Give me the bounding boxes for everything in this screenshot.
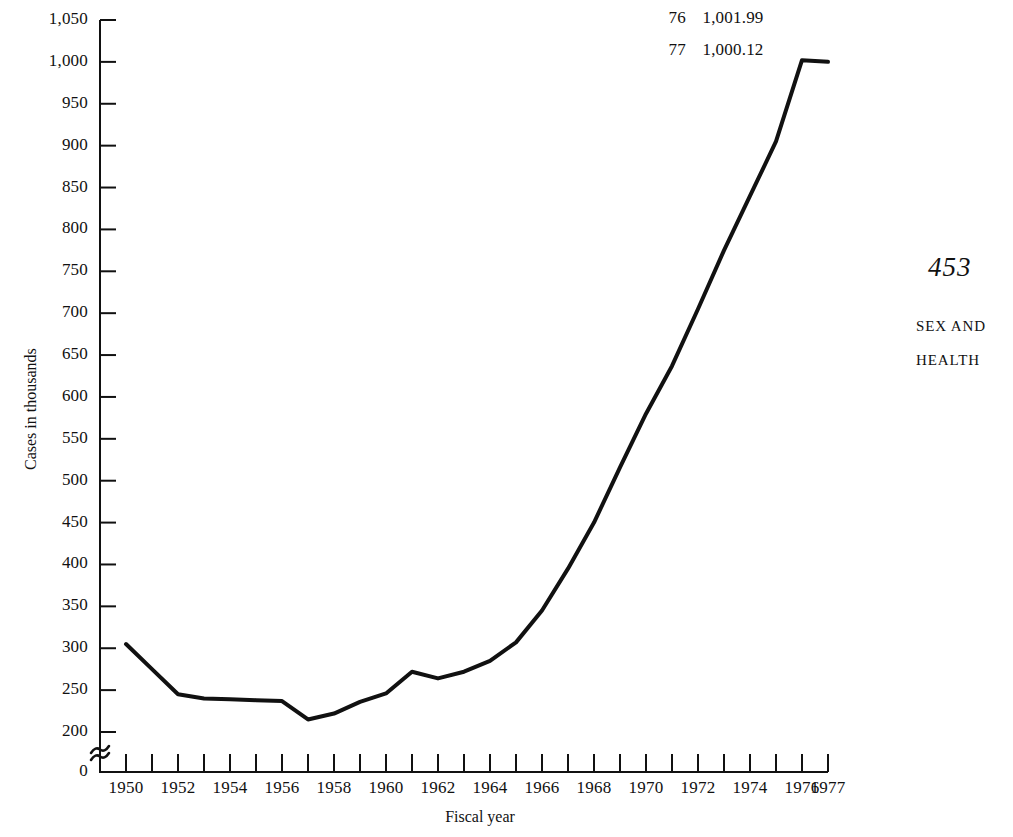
x-tick-label: 1960 bbox=[356, 778, 416, 798]
x-tick-label: 1977 bbox=[798, 778, 858, 798]
y-tick-label: 0 bbox=[0, 761, 88, 781]
annotation-1976-value: 1,001.99 bbox=[702, 8, 763, 28]
y-tick-label: 700 bbox=[0, 302, 88, 322]
data-series-line bbox=[126, 60, 828, 719]
y-tick-label: 550 bbox=[0, 428, 88, 448]
x-tick-label: 1950 bbox=[96, 778, 156, 798]
x-tick-label: 1974 bbox=[720, 778, 780, 798]
x-tick-label: 1956 bbox=[252, 778, 312, 798]
annotation-1977-year: 77 bbox=[660, 40, 686, 60]
annotation-1976: 76 1,001.99 bbox=[660, 8, 764, 28]
y-tick-label: 900 bbox=[0, 135, 88, 155]
x-tick-label: 1970 bbox=[616, 778, 676, 798]
y-tick-label: 450 bbox=[0, 512, 88, 532]
y-axis-title: Cases in thousands bbox=[22, 348, 40, 470]
y-tick-label: 600 bbox=[0, 386, 88, 406]
y-tick-label: 400 bbox=[0, 553, 88, 573]
y-tick-label: 950 bbox=[0, 93, 88, 113]
x-axis-title: Fiscal year bbox=[395, 808, 565, 826]
y-tick-label: 1,000 bbox=[0, 51, 88, 71]
y-tick-label: 200 bbox=[0, 721, 88, 741]
chart-plot-area bbox=[0, 0, 1013, 837]
y-tick-label: 850 bbox=[0, 177, 88, 197]
y-tick-label: 800 bbox=[0, 218, 88, 238]
x-tick-label: 1972 bbox=[668, 778, 728, 798]
y-tick-label: 750 bbox=[0, 260, 88, 280]
x-tick-label: 1954 bbox=[200, 778, 260, 798]
x-tick-label: 1966 bbox=[512, 778, 572, 798]
x-tick-label: 1968 bbox=[564, 778, 624, 798]
axis-lines bbox=[100, 20, 828, 772]
x-tick-label: 1962 bbox=[408, 778, 468, 798]
y-tick-label: 500 bbox=[0, 470, 88, 490]
x-tick-label: 1952 bbox=[148, 778, 208, 798]
running-head-line-1: SEX AND bbox=[916, 318, 986, 335]
annotation-1977: 77 1,000.12 bbox=[660, 40, 764, 60]
x-axis-ticks bbox=[126, 754, 828, 772]
annotation-1977-value: 1,000.12 bbox=[702, 40, 763, 60]
y-axis-ticks bbox=[100, 20, 116, 772]
y-tick-label: 300 bbox=[0, 637, 88, 657]
annotation-1976-year: 76 bbox=[660, 8, 686, 28]
x-tick-label: 1958 bbox=[304, 778, 364, 798]
x-tick-label: 1964 bbox=[460, 778, 520, 798]
y-tick-label: 250 bbox=[0, 679, 88, 699]
running-head-line-2: HEALTH bbox=[916, 352, 980, 369]
y-tick-label: 350 bbox=[0, 595, 88, 615]
page-folio: 453 bbox=[928, 252, 972, 283]
y-tick-label: 650 bbox=[0, 344, 88, 364]
chart-figure: 1,0501,000950900850800750700650600550500… bbox=[0, 0, 1013, 837]
y-tick-label: 1,050 bbox=[0, 9, 88, 29]
